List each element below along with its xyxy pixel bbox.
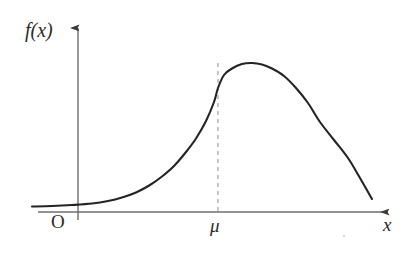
scan-artifact-dot [343,235,345,237]
y-axis-label: f(x) [25,20,53,40]
normal-distribution-curve [32,63,372,207]
origin-label: O [51,212,65,231]
mean-label: μ [210,216,220,235]
bell-curve-figure: f(x) O μ x [0,0,418,254]
x-axis-label: x [383,215,391,234]
